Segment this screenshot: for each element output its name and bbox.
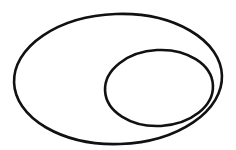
diagram-canvas [0, 0, 236, 150]
venn-diagram [0, 0, 236, 150]
outer-ellipse [12, 10, 224, 147]
inner-ellipse [103, 47, 215, 129]
